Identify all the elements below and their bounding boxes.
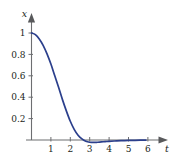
y-tick-label: 0.6 xyxy=(11,71,26,81)
y-axis-arrow-icon xyxy=(28,13,35,23)
x-tick-label: 4 xyxy=(106,144,112,154)
y-tick-label: 0.8 xyxy=(11,50,26,60)
x-tick-label: 5 xyxy=(126,144,132,154)
x-tick-label: 1 xyxy=(48,144,54,154)
decay-curve-chart: x t 0.20.40.60.81 123456 xyxy=(0,0,176,167)
x-tick-label: 6 xyxy=(145,144,151,154)
chart-figure: x t 0.20.40.60.81 123456 xyxy=(0,0,176,167)
y-axis-ticks: 0.20.40.60.81 xyxy=(11,28,33,124)
y-axis-label: x xyxy=(22,8,28,19)
x-tick-label: 3 xyxy=(87,144,93,154)
x-tick-label: 2 xyxy=(67,144,73,154)
data-curve-series-0 xyxy=(32,33,146,142)
x-axis-label: t xyxy=(165,143,169,154)
y-tick-label: 0.2 xyxy=(11,114,25,124)
y-tick-label: 1 xyxy=(20,28,26,38)
y-tick-label: 0.4 xyxy=(11,92,26,102)
